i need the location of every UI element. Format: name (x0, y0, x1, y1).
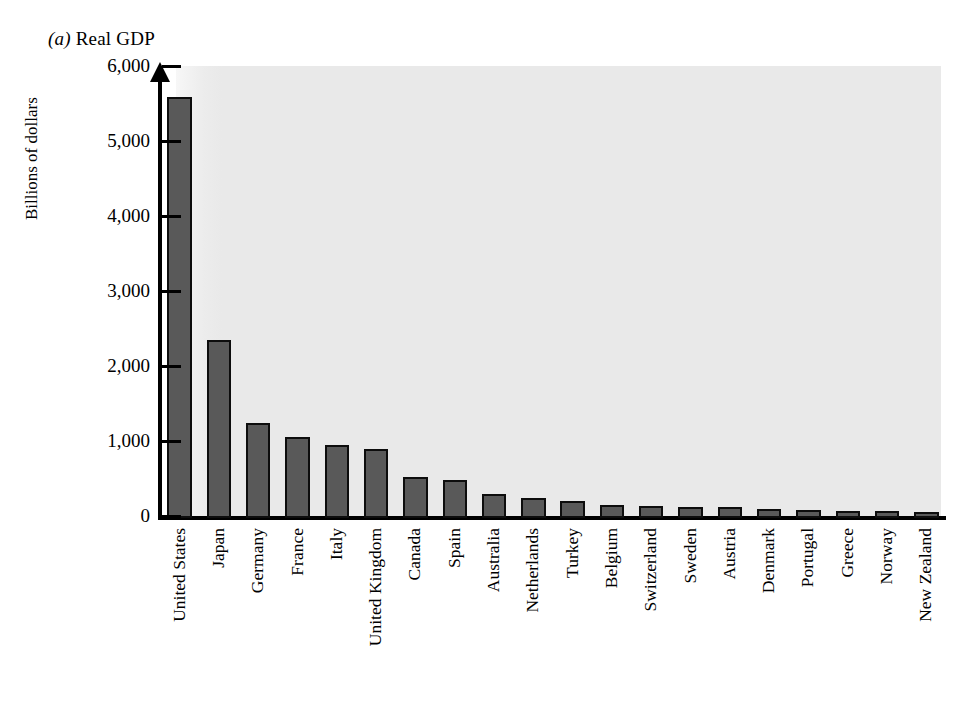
x-axis-tick-label: Norway (878, 528, 896, 584)
x-axis-tick-label-slot: Canada (396, 522, 435, 712)
bar (718, 507, 742, 518)
bar (600, 505, 624, 518)
x-axis-tick-label: France (289, 528, 307, 576)
x-axis-tick-label-slot: Germany (239, 522, 278, 712)
x-axis-tick-label-slot: New Zealand (907, 522, 946, 712)
x-axis-tick-label-slot: Japan (199, 522, 238, 712)
x-axis-tick-label: Greece (839, 528, 857, 578)
x-axis-tick-label: Spain (446, 528, 464, 568)
y-axis-tick-mark (162, 365, 181, 368)
x-axis-tick-label-slot: France (278, 522, 317, 712)
x-axis-tick-label: Turkey (564, 528, 582, 578)
x-axis-tick-labels: United StatesJapanGermanyFranceItalyUnit… (160, 522, 946, 720)
bar-series (160, 66, 946, 518)
y-axis-tick-label: 3,000 (50, 281, 150, 300)
x-axis-tick-label: Netherlands (525, 528, 543, 613)
x-axis-tick-label-slot: Italy (317, 522, 356, 712)
x-axis-tick-label-slot: Netherlands (514, 522, 553, 712)
y-axis-tick-mark (162, 215, 181, 218)
x-axis-tick-label: Denmark (760, 528, 778, 593)
bar (875, 511, 899, 519)
x-axis-tick-label: Germany (249, 528, 267, 593)
x-axis-tick-label: United States (171, 528, 189, 622)
bar (836, 511, 860, 519)
bar (364, 449, 388, 518)
bar (443, 480, 467, 518)
bar (246, 423, 270, 518)
bar (914, 512, 938, 518)
x-axis-tick-label-slot: Belgium (592, 522, 631, 712)
y-axis-tick-label: 2,000 (50, 356, 150, 375)
x-axis-tick-label-slot: Sweden (671, 522, 710, 712)
bar (167, 97, 191, 518)
x-axis-tick-label-slot: United Kingdom (357, 522, 396, 712)
y-axis-tick-label: 1,000 (50, 431, 150, 450)
x-axis-tick-label-slot: Norway (867, 522, 906, 712)
y-axis-tick-mark (162, 140, 181, 143)
y-axis-tick-label: 5,000 (50, 131, 150, 150)
x-axis-tick-label-slot: Turkey (553, 522, 592, 712)
x-axis-tick-label: United Kingdom (367, 528, 385, 646)
bar (757, 509, 781, 518)
x-axis-tick-label-slot: Switzerland (632, 522, 671, 712)
x-axis-tick-label: Austria (721, 528, 739, 580)
x-axis-tick-label: Portugal (800, 528, 818, 587)
bar (796, 510, 820, 518)
bar (207, 340, 231, 519)
y-axis-tick-mark (162, 290, 181, 293)
y-axis-tick-label: 6,000 (50, 56, 150, 75)
bar (639, 506, 663, 518)
x-axis-tick-label-slot: Austria (710, 522, 749, 712)
bar (285, 437, 309, 518)
x-axis-tick-label: Japan (210, 528, 228, 568)
figure-real-gdp-bar-chart: (a) Real GDP Billions of dollars 6,0005,… (0, 0, 974, 720)
bar (560, 501, 584, 518)
x-axis-tick-label: Italy (328, 528, 346, 560)
y-axis-tick-mark (162, 515, 181, 518)
y-axis-tick-mark (162, 440, 181, 443)
bar (482, 494, 506, 518)
y-axis-tick-labels: 6,0005,0004,0003,0002,0001,0000 (38, 0, 150, 520)
x-axis-tick-label-slot: Greece (828, 522, 867, 712)
x-axis-tick-label: Australia (485, 528, 503, 592)
x-axis-tick-label: Switzerland (642, 528, 660, 612)
y-axis-tick-mark (162, 65, 181, 68)
x-axis-tick-label-slot: Spain (435, 522, 474, 712)
y-axis-tick-label: 4,000 (50, 206, 150, 225)
bar (325, 445, 349, 518)
bar (403, 477, 427, 518)
y-axis-tick-label: 0 (50, 506, 150, 525)
x-axis-tick-label: Sweden (682, 528, 700, 583)
x-axis-tick-label-slot: Australia (474, 522, 513, 712)
x-axis-tick-label: New Zealand (918, 528, 936, 622)
x-axis-tick-label: Canada (407, 528, 425, 580)
x-axis-tick-label-slot: Denmark (750, 522, 789, 712)
x-axis-tick-label-slot: Portugal (789, 522, 828, 712)
x-axis-tick-label: Belgium (603, 528, 621, 588)
bar (521, 498, 545, 518)
x-axis-tick-label-slot: United States (160, 522, 199, 712)
bar (678, 507, 702, 518)
